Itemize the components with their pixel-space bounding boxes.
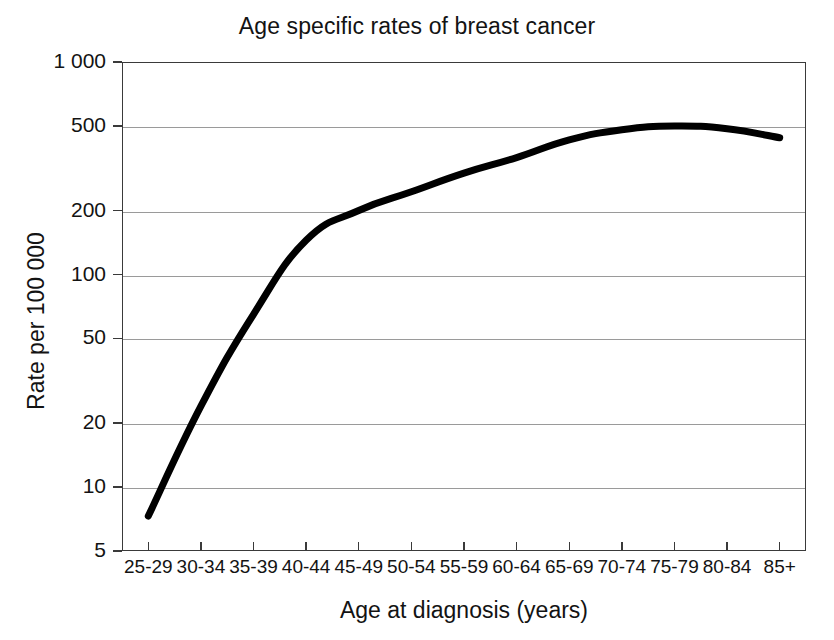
y-tick-mark (113, 274, 122, 275)
y-tick-label: 5 (94, 538, 106, 562)
x-tick-label: 50-54 (387, 556, 436, 578)
x-tick-label: 35-39 (229, 556, 278, 578)
x-tick-label: 25-29 (124, 556, 173, 578)
plot-area (122, 62, 806, 551)
x-tick-label: 55-59 (440, 556, 489, 578)
y-tick-mark (113, 210, 122, 211)
x-tick-label: 80-84 (703, 556, 752, 578)
x-tick-label: 45-49 (334, 556, 383, 578)
y-tick-mark (113, 550, 122, 551)
chart-figure: Age specific rates of breast cancer Rate… (0, 0, 834, 640)
x-axis-label: Age at diagnosis (years) (122, 597, 806, 624)
x-tick-label: 30-34 (177, 556, 226, 578)
x-tick-label: 75-79 (650, 556, 699, 578)
gridline (123, 276, 805, 277)
gridline (123, 212, 805, 213)
x-tick-label: 85+ (764, 556, 796, 578)
x-tick-mark (516, 542, 517, 551)
y-tick-mark (113, 61, 122, 62)
x-tick-mark (253, 542, 254, 551)
x-tick-mark (621, 542, 622, 551)
y-tick-label: 200 (71, 198, 106, 222)
x-tick-mark (569, 542, 570, 551)
x-tick-label: 65-69 (545, 556, 594, 578)
x-tick-mark (726, 542, 727, 551)
x-tick-mark (411, 542, 412, 551)
y-axis-label-container: Rate per 100 000 (23, 111, 53, 531)
y-tick-mark (113, 486, 122, 487)
y-tick-label: 20 (83, 410, 106, 434)
y-tick-label: 10 (83, 474, 106, 498)
x-tick-label: 60-64 (492, 556, 541, 578)
x-tick-mark (779, 542, 780, 551)
gridline (123, 127, 805, 128)
y-axis-label: Rate per 100 000 (23, 232, 49, 410)
x-tick-mark (358, 542, 359, 551)
y-tick-label: 500 (71, 113, 106, 137)
y-tick-mark (113, 338, 122, 339)
x-tick-mark (200, 542, 201, 551)
y-tick-mark (113, 125, 122, 126)
x-tick-mark (674, 542, 675, 551)
x-tick-mark (463, 542, 464, 551)
x-tick-label: 40-44 (282, 556, 331, 578)
gridline (123, 339, 805, 340)
gridline (123, 488, 805, 489)
y-tick-label: 100 (71, 262, 106, 286)
x-tick-label: 70-74 (598, 556, 647, 578)
gridline (123, 424, 805, 425)
x-tick-mark (305, 542, 306, 551)
y-tick-label: 1 000 (53, 49, 106, 73)
x-tick-mark (148, 542, 149, 551)
chart-title: Age specific rates of breast cancer (0, 13, 834, 40)
y-tick-label: 50 (83, 325, 106, 349)
y-tick-mark (113, 422, 122, 423)
